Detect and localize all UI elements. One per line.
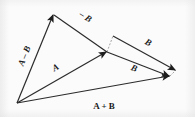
vector-diagram-canvas: A – B – B A A + B B B (0, 0, 195, 117)
label-a-plus-b: A + B (93, 101, 115, 111)
figure-background (0, 0, 195, 117)
vector-diagram-figure: A – B – B A A + B B B (0, 0, 195, 117)
